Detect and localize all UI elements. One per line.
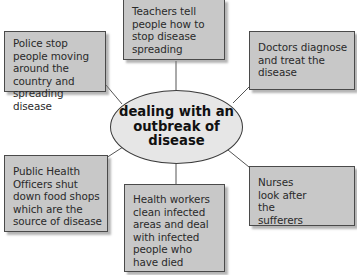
node-health-workers: Health workers clean infected areas and … xyxy=(124,184,225,272)
node-nurses: Nurses look after the sufferers xyxy=(249,166,355,226)
node-police: Police stop people moving around the cou… xyxy=(4,31,106,92)
connector-police xyxy=(106,85,122,104)
node-label: Nurses look after the sufferers xyxy=(258,176,307,226)
node-label: Public Health Officers shut down food sh… xyxy=(13,165,102,227)
central-topic-label: dealing with an outbreak of disease xyxy=(117,105,237,149)
node-doctors: Doctors diagnose and treat the disease xyxy=(249,31,355,90)
central-topic: dealing with an outbreak of disease xyxy=(110,90,243,164)
node-public-health: Public Health Officers shut down food sh… xyxy=(4,155,108,232)
node-teachers: Teachers tell people how to stop disease… xyxy=(123,0,225,60)
node-label: Doctors diagnose and treat the disease xyxy=(258,41,347,78)
spider-diagram: Teachers tell people how to stop disease… xyxy=(0,0,357,275)
connector-doctors xyxy=(233,86,250,103)
node-label: Teachers tell people how to stop disease… xyxy=(132,5,204,55)
connector-nurses xyxy=(228,150,249,167)
node-label: Health workers clean infected areas and … xyxy=(133,193,210,268)
